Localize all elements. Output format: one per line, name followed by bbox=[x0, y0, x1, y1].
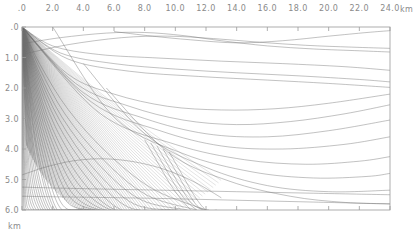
x-axis-tick-label: 2.0 bbox=[46, 4, 60, 13]
y-axis-tick-label: 3.0 bbox=[0, 114, 19, 123]
x-axis-tick-label: .0 bbox=[18, 4, 26, 13]
x-axis-unit-label: km bbox=[400, 5, 413, 14]
ray-path bbox=[22, 27, 390, 70]
ray-path bbox=[22, 27, 390, 125]
ray-path bbox=[114, 31, 390, 43]
ray-path bbox=[22, 27, 390, 164]
x-axis-tick-label: 16.0 bbox=[258, 4, 277, 13]
y-axis-tick-label: 6.0 bbox=[0, 206, 19, 215]
ray-path bbox=[53, 27, 390, 178]
x-axis-tick-label: 4.0 bbox=[76, 4, 90, 13]
y-axis-tick-label: 2.0 bbox=[0, 84, 19, 93]
ray-paths-group bbox=[22, 27, 390, 223]
x-axis-tick-label: 10.0 bbox=[166, 4, 185, 13]
y-axis-tick-label: 4.0 bbox=[0, 145, 19, 154]
ray-path bbox=[22, 32, 390, 52]
x-axis-tick-label: 6.0 bbox=[107, 4, 121, 13]
y-axis-tick-label: .0 bbox=[0, 23, 19, 32]
x-axis-tick-label: 22.0 bbox=[350, 4, 369, 13]
y-axis-tick-label: 5.0 bbox=[0, 175, 19, 184]
ray-path bbox=[22, 196, 390, 204]
x-axis-tick-label: 12.0 bbox=[196, 4, 215, 13]
x-axis-tick-label: 24.0 bbox=[380, 4, 399, 13]
ray-path bbox=[22, 27, 390, 137]
x-axis-tick-label: 20.0 bbox=[319, 4, 338, 13]
x-axis-tick-label: 14.0 bbox=[227, 4, 246, 13]
ray-path bbox=[22, 27, 390, 110]
y-axis-tick-label: 1.0 bbox=[0, 53, 19, 62]
x-axis-tick-label: 18.0 bbox=[288, 4, 307, 13]
ray-path-plot bbox=[0, 0, 420, 237]
ray-path-figure: .02.04.06.08.010.012.014.016.018.020.022… bbox=[0, 0, 420, 237]
y-axis-unit-label: km bbox=[8, 222, 21, 231]
x-axis-tick-label: 8.0 bbox=[138, 4, 152, 13]
